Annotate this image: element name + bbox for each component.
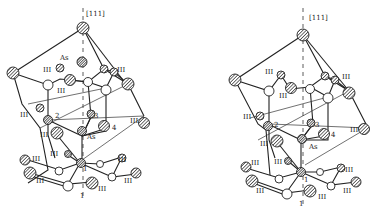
atom: [285, 158, 292, 165]
label-III: III: [350, 126, 359, 134]
label-III1: III: [36, 177, 45, 185]
label-III6: III: [57, 87, 66, 95]
axis-label: [111]: [86, 10, 105, 18]
atom-white: [84, 78, 93, 87]
label-IIIb: III: [130, 117, 139, 125]
atom: [100, 65, 108, 73]
atom-white: [317, 169, 324, 176]
label-IIIa: III: [117, 66, 126, 74]
label-III4b: III: [118, 156, 127, 164]
atom: [321, 72, 329, 80]
label-III: III: [265, 68, 274, 76]
atom-white: [264, 86, 274, 96]
label-III6b: III: [40, 131, 49, 139]
label-as-ga: As: [86, 133, 96, 141]
atom: [65, 75, 76, 86]
atom: [51, 127, 63, 139]
atom-white: [327, 182, 335, 190]
atom: [241, 162, 251, 172]
atom: [304, 185, 316, 197]
atom-white: [306, 85, 315, 94]
atom-white: [275, 175, 283, 183]
label-4: 4: [331, 131, 336, 139]
crystal-structure-stereo-pair: [111] As III III III III 2 3 4 III III A…: [0, 0, 374, 207]
atom-white: [55, 167, 63, 175]
label-1: 1: [83, 165, 87, 173]
atom: [24, 167, 36, 179]
atom-white: [97, 161, 104, 168]
atom-4: [319, 129, 330, 140]
axis-label: [111]: [309, 14, 328, 22]
label-as: As: [59, 54, 69, 62]
atom: [337, 164, 345, 172]
atom-white: [108, 173, 116, 181]
atom: [359, 124, 370, 135]
label-III: III: [342, 73, 351, 81]
atom: [331, 76, 339, 84]
label-III: III: [260, 140, 269, 148]
atom: [351, 177, 361, 187]
atom-as-ga: [78, 127, 87, 136]
label-IIIc: III: [124, 177, 133, 185]
atom-2: [264, 122, 273, 131]
label-III: III: [343, 187, 352, 195]
atom-white: [282, 189, 292, 199]
label-III: III: [274, 158, 283, 166]
atom: [277, 71, 285, 79]
atom-top: [297, 29, 309, 41]
label-1b: 1: [299, 200, 303, 207]
atom: [7, 67, 19, 79]
atom-white: [43, 80, 53, 90]
atom: [271, 135, 283, 147]
atom-4: [99, 121, 110, 132]
label-1: 1: [304, 176, 308, 184]
label-III: III: [279, 92, 288, 100]
atom-top: [77, 22, 89, 34]
label-3: 3: [94, 112, 98, 120]
atom: [56, 64, 64, 72]
atom-white: [323, 93, 333, 103]
label-4: 4: [112, 124, 117, 132]
atom-2: [44, 116, 53, 125]
atom-white: [101, 85, 111, 95]
label-III2: III: [50, 150, 59, 158]
atom: [86, 177, 98, 189]
atom: [36, 104, 44, 112]
atom: [246, 175, 258, 187]
label-2: 2: [55, 112, 59, 120]
label-III3: III: [20, 111, 29, 119]
atom: [139, 118, 150, 129]
atom: [343, 87, 355, 99]
label-III: III: [318, 193, 327, 201]
label-III: III: [345, 166, 354, 174]
label-III5: III: [43, 66, 52, 74]
label-III: III: [251, 159, 260, 167]
label-3: 3: [315, 121, 319, 129]
label-as-ga: As: [308, 143, 318, 151]
label-III: III: [243, 113, 252, 121]
label-2: 2: [274, 121, 278, 129]
label-III4: III: [32, 155, 41, 163]
atom-as-interstitial: [77, 57, 87, 67]
label-IIIc2: III: [98, 185, 107, 193]
atom: [65, 151, 72, 158]
atom: [256, 112, 264, 120]
atom: [122, 78, 134, 90]
atom-3: [307, 119, 315, 127]
atom: [131, 168, 141, 178]
label-1b: 1: [80, 192, 84, 200]
label-III: III: [256, 187, 265, 195]
atom-as-ga: [298, 135, 307, 144]
left-structure: [111] As III III III III 2 3 4 III III A…: [7, 8, 150, 200]
atom: [20, 155, 30, 165]
atom-white: [63, 181, 73, 191]
atom: [229, 74, 241, 86]
right-structure: [111] III III III III 2 3 4 III III As I…: [229, 8, 370, 207]
